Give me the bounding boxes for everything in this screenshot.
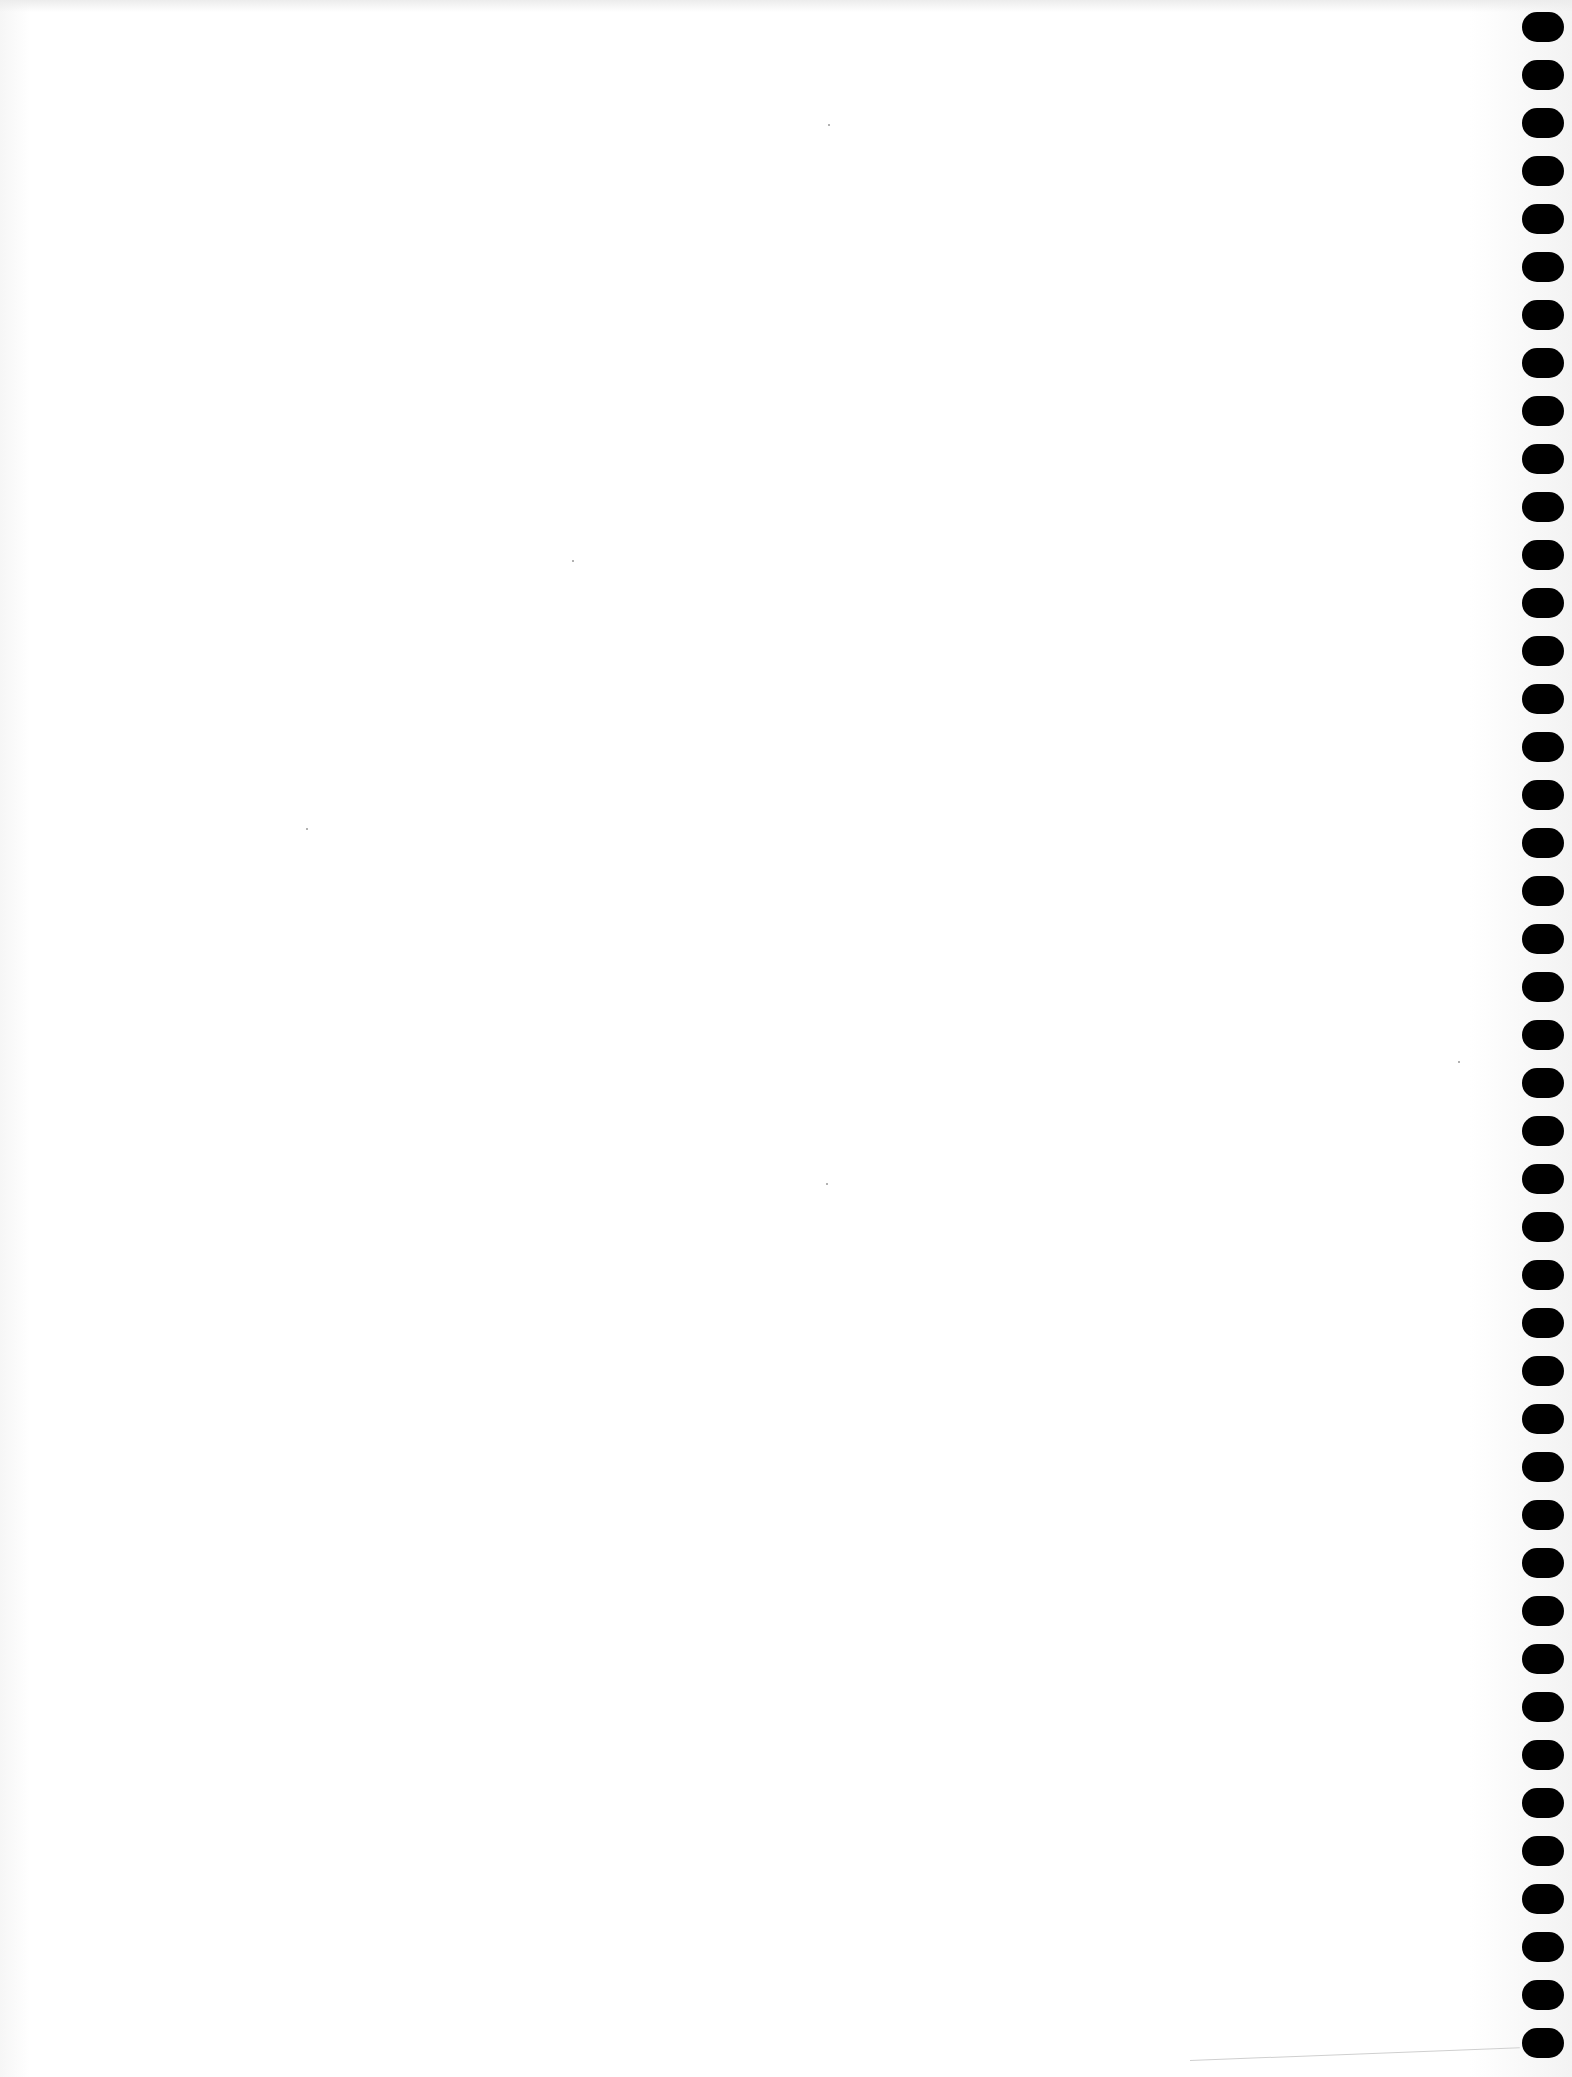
binding-hole (1522, 732, 1564, 762)
binding-hole (1522, 924, 1564, 954)
binding-hole (1522, 1692, 1564, 1722)
binding-hole (1522, 1932, 1564, 1962)
binding-hole (1522, 2028, 1564, 2058)
binding-hole (1522, 684, 1564, 714)
binding-hole (1522, 1260, 1564, 1290)
top-edge-shadow (0, 0, 1572, 12)
binding-hole (1522, 1356, 1564, 1386)
binding-hole (1522, 1068, 1564, 1098)
binding-hole (1522, 780, 1564, 810)
binding-hole (1522, 156, 1564, 186)
binding-hole (1522, 300, 1564, 330)
binding-hole (1522, 540, 1564, 570)
paper-speck (826, 1183, 828, 1185)
binding-hole (1522, 1116, 1564, 1146)
binding-hole (1522, 1452, 1564, 1482)
binding-hole (1522, 204, 1564, 234)
binding-hole (1522, 1884, 1564, 1914)
binding-hole (1522, 636, 1564, 666)
binding-hole (1522, 1404, 1564, 1434)
paper-speck (1458, 1061, 1460, 1063)
binding-hole (1522, 492, 1564, 522)
binding-hole (1522, 588, 1564, 618)
binding-hole (1522, 1308, 1564, 1338)
binding-hole (1522, 1644, 1564, 1674)
paper-speck (306, 828, 308, 830)
binding-hole (1522, 972, 1564, 1002)
binding-hole (1522, 1548, 1564, 1578)
binding-hole (1522, 1980, 1564, 2010)
binding-hole (1522, 1788, 1564, 1818)
spiral-binding-holes (1518, 0, 1572, 2077)
binding-hole (1522, 828, 1564, 858)
binding-hole (1522, 1212, 1564, 1242)
binding-hole (1522, 1740, 1564, 1770)
binding-hole (1522, 444, 1564, 474)
binding-hole (1522, 252, 1564, 282)
notebook-page (0, 0, 1572, 2077)
paper-speck (828, 124, 830, 126)
binding-hole (1522, 1836, 1564, 1866)
binding-hole (1522, 1164, 1564, 1194)
binding-hole (1522, 1596, 1564, 1626)
binding-hole (1522, 396, 1564, 426)
binding-hole (1522, 348, 1564, 378)
paper-speck (572, 560, 574, 562)
binding-hole (1522, 876, 1564, 906)
page-curl-edge (1190, 2047, 1520, 2061)
binding-hole (1522, 1500, 1564, 1530)
binding-hole (1522, 12, 1564, 42)
binding-hole (1522, 1020, 1564, 1050)
binding-hole (1522, 108, 1564, 138)
binding-hole (1522, 60, 1564, 90)
